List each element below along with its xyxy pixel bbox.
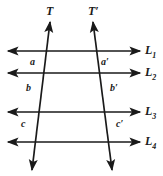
- geometry-figure: T T′ L1 L2 L3 L4 a b c a′ b′ c′: [0, 0, 163, 176]
- segment-label-b-prime: b′: [110, 83, 118, 93]
- line-label-l2-subscript: 2: [152, 73, 156, 82]
- segment-label-c: c: [21, 119, 25, 129]
- transversals-group: [32, 22, 112, 170]
- segment-label-b: b: [26, 83, 31, 93]
- line-label-l2: L2: [145, 66, 156, 81]
- segment-label-a-prime: a′: [101, 57, 109, 67]
- transversal-label-t-prime: T′: [88, 5, 99, 17]
- line-label-l1: L1: [145, 44, 156, 59]
- line-label-l1-subscript: 1: [152, 51, 156, 60]
- line-label-l3-subscript: 3: [152, 112, 156, 121]
- segment-label-c-prime: c′: [116, 119, 123, 129]
- line-label-l4: L4: [145, 135, 156, 150]
- transversal-t-prime: [93, 22, 112, 170]
- segment-label-a: a: [30, 57, 35, 67]
- line-label-l4-subscript: 4: [152, 142, 156, 151]
- line-label-l3: L3: [145, 105, 156, 120]
- diagram-canvas: [0, 0, 163, 176]
- transversal-label-t: T: [46, 5, 53, 17]
- transversal-t: [32, 22, 50, 170]
